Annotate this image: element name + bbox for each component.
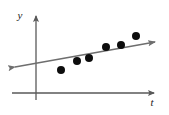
- data-point: [57, 66, 65, 74]
- scatter-plot-figure: y t: [0, 0, 169, 115]
- data-point: [132, 32, 140, 40]
- data-point: [85, 54, 93, 62]
- figure-canvas: y t: [0, 0, 169, 115]
- data-point: [102, 43, 110, 51]
- data-point: [117, 41, 125, 49]
- data-point-group: [57, 32, 140, 74]
- x-axis-label: t: [150, 96, 154, 108]
- y-axis-label: y: [17, 9, 23, 21]
- data-point: [73, 57, 81, 65]
